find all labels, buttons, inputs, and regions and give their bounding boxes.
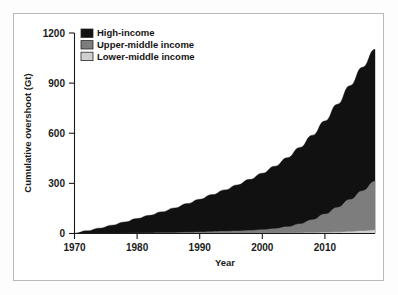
legend-swatch-2 xyxy=(81,52,93,60)
y-tick-label: 300 xyxy=(48,178,65,189)
x-tick-label: 2000 xyxy=(251,242,274,253)
y-axis-title: Cumulative overshoot (Gt) xyxy=(22,73,33,192)
x-axis-title: Year xyxy=(215,257,235,268)
legend-label-2: Lower-middle income xyxy=(97,51,195,62)
x-axis-ticks: 19701980199020002010 xyxy=(63,234,336,254)
y-tick-label: 600 xyxy=(48,128,65,139)
y-axis-ticks: 03006009001200 xyxy=(43,28,75,240)
legend-label-1: Upper-middle income xyxy=(97,39,194,50)
legend-swatch-1 xyxy=(81,41,93,49)
legend-swatch-0 xyxy=(81,29,93,37)
y-tick-label: 0 xyxy=(59,228,65,239)
area-high-income xyxy=(75,49,376,233)
chart-areas xyxy=(75,49,376,233)
y-tick-label: 900 xyxy=(48,78,65,89)
figure-container: 03006009001200 19701980199020002010 Cumu… xyxy=(0,0,398,295)
y-tick-label: 1200 xyxy=(43,28,66,39)
x-tick-label: 1990 xyxy=(189,242,212,253)
x-tick-label: 2010 xyxy=(314,242,337,253)
chart-legend: High-incomeUpper-middle incomeLower-midd… xyxy=(81,27,195,61)
x-tick-label: 1980 xyxy=(126,242,149,253)
legend-label-0: High-income xyxy=(97,27,155,38)
stacked-area-chart: 03006009001200 19701980199020002010 Cumu… xyxy=(0,0,398,295)
x-tick-label: 1970 xyxy=(63,242,86,253)
